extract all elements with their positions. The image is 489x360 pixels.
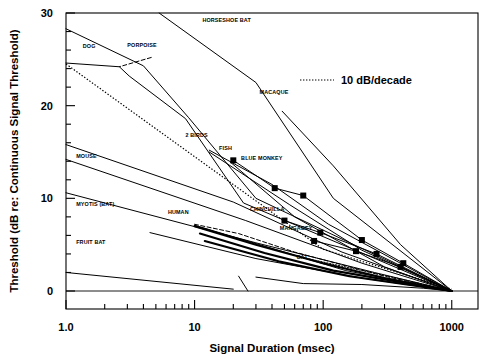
data-point-marker [281,218,287,224]
y-axis-title: Threshold (dB re: Continuous Signal Thre… [8,29,20,292]
series-label: CHINCHILLA [250,206,284,212]
y-tick-label: 20 [41,100,53,112]
data-point-marker [272,185,278,191]
y-tick-label: 10 [41,192,53,204]
series-line [239,276,248,291]
chart-svg: HORSESHOE BATDOGPORPOISEMACAQUE2 BIRDSMO… [0,0,489,360]
series-label: MOUSE [76,153,97,159]
series-label: MANGABEY [280,225,313,231]
series-label: DOG [83,43,96,49]
data-series-group [66,13,452,291]
series-label: CAT [296,254,308,260]
chart-figure: HORSESHOE BATDOGPORPOISEMACAQUE2 BIRDSMO… [0,0,489,360]
series-label: 2 BIRDS [186,132,209,138]
data-point-marker [311,238,317,244]
series-line [66,272,233,289]
series-line [159,13,452,291]
series-label: HUMAN [168,209,189,215]
y-tick-label: 30 [41,7,53,19]
y-tick-label: 0 [47,285,53,297]
y-tick-labels: 0102030 [41,7,53,297]
x-axis-title: Signal Duration (msec) [209,342,334,354]
x-tick-label: 100 [314,321,332,333]
data-markers-group [230,157,406,270]
legend: 10 dB/decade [300,74,412,86]
legend-label: 10 dB/decade [341,74,412,86]
series-label: MACAQUE [260,89,289,95]
series-label: HORSESHOE BAT [202,17,251,23]
data-point-marker [353,248,359,254]
series-line [119,57,151,66]
series-line [66,145,452,291]
x-tick-label: 1.0 [58,321,73,333]
data-point-marker [398,264,404,270]
data-point-marker [317,230,323,236]
data-point-marker [300,193,306,199]
data-point-marker [359,237,365,243]
x-tick-label: 1000 [440,321,464,333]
series-label: PORPOISE [127,42,157,48]
x-axis-ticks [66,300,452,309]
x-tick-labels: 1.0101001000 [58,321,464,333]
data-point-marker [230,157,236,163]
data-point-marker [374,251,380,257]
series-label: BLUE MONKEY [241,155,283,161]
x-tick-label: 10 [188,321,200,333]
y-axis-ticks [66,13,75,291]
series-label: FRUIT BAT [76,239,106,245]
series-label: MYOTIS (BAT) [76,201,114,207]
series-label: FISH [219,145,232,151]
